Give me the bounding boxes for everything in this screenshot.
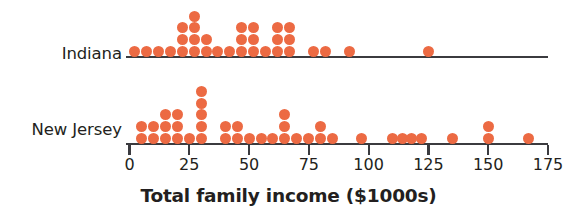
x-axis-tick-label: 75	[284, 155, 334, 174]
x-axis-tick-label: 50	[224, 155, 274, 174]
x-axis-tick	[368, 145, 370, 155]
x-axis-tick	[308, 145, 310, 155]
x-axis-tick	[188, 145, 190, 155]
x-axis-tick	[547, 145, 549, 155]
x-axis-tick-label: 150	[463, 155, 513, 174]
x-axis-tick-label: 175	[523, 155, 573, 174]
x-axis-tick	[427, 145, 429, 155]
x-axis-tick	[248, 145, 250, 155]
x-axis-tick-label: 25	[164, 155, 214, 174]
x-axis-tick-label: 125	[403, 155, 453, 174]
x-axis-title: Total family income ($1000s)	[0, 185, 577, 206]
x-axis-tick-label: 100	[344, 155, 394, 174]
x-axis-tick	[128, 145, 130, 155]
x-axis-tick-label: 0	[105, 155, 155, 174]
dot-plot-figure: Indiana New Jersey 0255075100125150175 T…	[0, 0, 577, 223]
x-axis-tick	[487, 145, 489, 155]
